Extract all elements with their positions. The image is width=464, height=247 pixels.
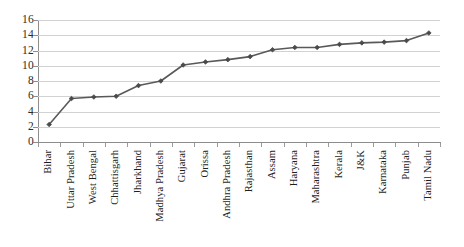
x-axis-tick-labels: BiharUttar PradeshWest BengalChhattisgar… <box>0 0 464 247</box>
x-tick-label-chhattisgarh: Chhattisgarh <box>110 150 121 205</box>
x-tick-mark <box>105 143 106 147</box>
x-tick-mark <box>261 143 262 147</box>
x-tick-label-gujarat: Gujarat <box>177 150 188 182</box>
x-tick-label-haryana: Haryana <box>289 150 300 186</box>
y-tick-mark-16 <box>33 20 38 21</box>
y-tick-mark-12 <box>33 51 38 52</box>
y-tick-mark-10 <box>33 66 38 67</box>
x-tick-mark <box>351 143 352 147</box>
x-tick-label-kerala: Kerala <box>334 150 345 179</box>
x-tick-label-maharashtra: Maharashtra <box>311 150 322 204</box>
x-tick-mark <box>127 143 128 147</box>
x-tick-mark <box>440 143 441 147</box>
y-tick-mark-8 <box>33 81 38 82</box>
x-tick-label-madhya-pradesh: Madhya Pradesh <box>155 150 166 222</box>
x-tick-label-orissa: Orissa <box>200 150 211 177</box>
x-tick-mark <box>83 143 84 147</box>
x-tick-mark <box>328 143 329 147</box>
y-tick-mark-6 <box>33 96 38 97</box>
x-tick-label-uttar-pradesh: Uttar Pradesh <box>66 150 77 209</box>
y-tick-mark-2 <box>33 127 38 128</box>
x-tick-label-andhra-pradesh: Andhra Pradesh <box>222 150 233 219</box>
x-tick-label-bihar: Bihar <box>43 150 54 174</box>
x-tick-label-tamil-nadu: Tamil Nadu <box>423 150 434 201</box>
x-tick-mark <box>194 143 195 147</box>
x-tick-mark <box>306 143 307 147</box>
x-tick-label-j-k: J&K <box>356 150 367 170</box>
x-tick-label-assam: Assam <box>267 150 278 179</box>
y-tick-mark-14 <box>33 35 38 36</box>
x-tick-mark <box>284 143 285 147</box>
x-tick-mark <box>373 143 374 147</box>
x-tick-mark <box>150 143 151 147</box>
x-tick-label-jharkhand: Jharkhand <box>133 150 144 194</box>
x-tick-mark <box>38 143 39 147</box>
y-tick-mark-4 <box>33 112 38 113</box>
line-chart: 0246810121416 BiharUttar PradeshWest Ben… <box>0 0 464 247</box>
x-tick-mark <box>418 143 419 147</box>
x-tick-mark <box>217 143 218 147</box>
x-tick-mark <box>60 143 61 147</box>
x-tick-mark <box>395 143 396 147</box>
x-tick-label-rajasthan: Rajasthan <box>244 150 255 192</box>
x-tick-mark <box>172 143 173 147</box>
x-tick-label-west-bengal: West Bengal <box>88 150 99 204</box>
x-tick-label-punjab: Punjab <box>401 150 412 180</box>
x-tick-mark <box>239 143 240 147</box>
x-tick-label-karnataka: Karnataka <box>378 150 389 194</box>
